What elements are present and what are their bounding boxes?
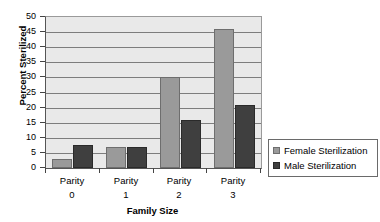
bar-male-parity-2: [181, 120, 201, 168]
y-axis-tick-label: 15: [14, 118, 36, 127]
bar-female-parity-1: [106, 147, 126, 168]
plot-area: [45, 16, 262, 169]
x-axis-label: Family Size: [45, 205, 260, 216]
legend-swatch-icon: [273, 147, 280, 154]
x-category-line2: 3: [206, 188, 260, 202]
bar-female-parity-0: [52, 159, 72, 168]
x-axis-tick-mark: [99, 168, 100, 173]
y-axis-tick-label: 20: [14, 103, 36, 112]
legend-label: Male Sterilization: [284, 161, 356, 171]
x-category-line1: Parity: [114, 175, 138, 186]
bar-female-parity-2: [160, 77, 180, 168]
chart-legend: Female SterilizationMale Sterilization: [268, 139, 378, 177]
y-axis-tick-label: 30: [14, 72, 36, 81]
y-axis-tick-label: 0: [14, 163, 36, 172]
x-category-line1: Parity: [167, 175, 191, 186]
x-axis-tick-mark: [45, 168, 46, 173]
chart-title: States Wide - 1997: [0, 0, 274, 1]
x-category-line2: 2: [152, 188, 206, 202]
legend-item-male: Male Sterilization: [273, 158, 374, 173]
x-axis-category-0: Parity0: [45, 174, 99, 202]
legend-item-female: Female Sterilization: [273, 143, 374, 158]
x-axis-tick-mark: [153, 168, 154, 173]
y-axis-tick-label: 25: [14, 88, 36, 97]
x-category-line2: 1: [99, 188, 153, 202]
x-axis-category-2: Parity2: [152, 174, 206, 202]
bar-male-parity-0: [73, 145, 93, 168]
x-axis-category-3: Parity3: [206, 174, 260, 202]
bar-male-parity-3: [235, 105, 255, 168]
legend-swatch-icon: [273, 162, 280, 169]
x-category-line2: 0: [45, 188, 99, 202]
y-axis-tick-label: 40: [14, 42, 36, 51]
x-category-line1: Parity: [60, 175, 84, 186]
bar-female-parity-3: [214, 29, 234, 168]
y-axis-tick-label: 10: [14, 133, 36, 142]
x-axis-tick-mark: [260, 168, 261, 173]
y-axis-tick-label: 5: [14, 148, 36, 157]
y-axis-tick-label: 35: [14, 57, 36, 66]
x-category-line1: Parity: [221, 175, 245, 186]
bar-male-parity-1: [127, 147, 147, 168]
y-axis-tick-label: 45: [14, 27, 36, 36]
y-axis-tick-label: 50: [14, 12, 36, 21]
x-axis-tick-mark: [206, 168, 207, 173]
legend-label: Female Sterilization: [284, 146, 367, 156]
bar-chart: States Wide - 1997 Percent Sterilized 05…: [0, 0, 380, 222]
x-axis-category-1: Parity1: [99, 174, 153, 202]
